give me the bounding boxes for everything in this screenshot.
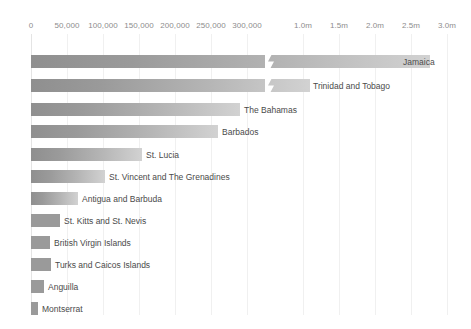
bar-label: Montserrat (42, 303, 83, 315)
bar[interactable] (31, 280, 44, 293)
bar[interactable] (31, 103, 240, 116)
bar-label: St. Lucia (146, 149, 179, 161)
bar-row[interactable]: The Bahamas (0, 103, 471, 116)
bar-row[interactable]: Barbados (0, 125, 471, 138)
bar[interactable] (31, 302, 38, 315)
x-axis-tick-label: 3.0m (438, 21, 456, 30)
bar-label: St. Kitts and St. Nevis (64, 215, 146, 227)
x-axis-tick-label: 2.5m (402, 21, 420, 30)
bar-label: St. Vincent and The Grenadines (109, 171, 230, 183)
bar[interactable] (31, 170, 105, 183)
bar[interactable] (31, 192, 78, 205)
x-axis-tick-label: 50,000 (54, 21, 79, 30)
bar-label: Turks and Caicos Islands (55, 259, 150, 271)
bar[interactable] (31, 79, 310, 92)
bar[interactable] (31, 214, 60, 227)
x-axis-tick-label: 1.5m (330, 21, 348, 30)
bar[interactable] (31, 148, 142, 161)
bar-label: Antigua and Barbuda (82, 193, 162, 205)
bar-row[interactable]: Jamaica (0, 55, 471, 68)
bar-row[interactable]: Montserrat (0, 302, 471, 315)
bar-row[interactable]: Turks and Caicos Islands (0, 258, 471, 271)
bar-row[interactable]: Anguilla (0, 280, 471, 293)
bar-chart: 050,000100,000150,000200,000250,000300,0… (0, 0, 471, 329)
bar-row[interactable]: St. Lucia (0, 148, 471, 161)
bar-row[interactable]: St. Vincent and The Grenadines (0, 170, 471, 183)
x-axis-tick-label: 150,000 (124, 21, 154, 30)
bar[interactable] (31, 258, 51, 271)
bar-label: Anguilla (48, 281, 78, 293)
x-axis-tick-label: 200,000 (160, 21, 190, 30)
bar-row[interactable]: Antigua and Barbuda (0, 192, 471, 205)
bar-row[interactable]: Trinidad and Tobago (0, 79, 471, 92)
x-axis-tick-label: 1.0m (294, 21, 312, 30)
bar-row[interactable]: British Virgin Islands (0, 236, 471, 249)
bar[interactable] (31, 236, 50, 249)
bar-row[interactable]: St. Kitts and St. Nevis (0, 214, 471, 227)
bar[interactable] (31, 125, 218, 138)
bar-label: Jamaica (403, 56, 435, 68)
x-axis-tick-label: 250,000 (196, 21, 226, 30)
x-axis-tick-label: 100,000 (88, 21, 118, 30)
bar[interactable] (31, 55, 430, 68)
x-axis-tick-label: 0 (29, 21, 34, 30)
x-axis-tick-label: 2.0m (366, 21, 384, 30)
plot-area: 050,000100,000150,000200,000250,000300,0… (0, 0, 471, 329)
bar-label: Trinidad and Tobago (313, 80, 390, 92)
bar-label: Barbados (222, 126, 258, 138)
bar-label: British Virgin Islands (54, 237, 131, 249)
bar-label: The Bahamas (244, 104, 297, 116)
x-axis-tick-label: 300,000 (232, 21, 262, 30)
